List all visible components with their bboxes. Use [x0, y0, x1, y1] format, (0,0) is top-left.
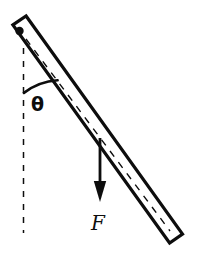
force-label-f: F [91, 213, 105, 233]
pivot-point [15, 27, 23, 35]
physics-diagram-figure: θ F [0, 0, 208, 264]
angle-label-theta: θ [31, 95, 44, 114]
